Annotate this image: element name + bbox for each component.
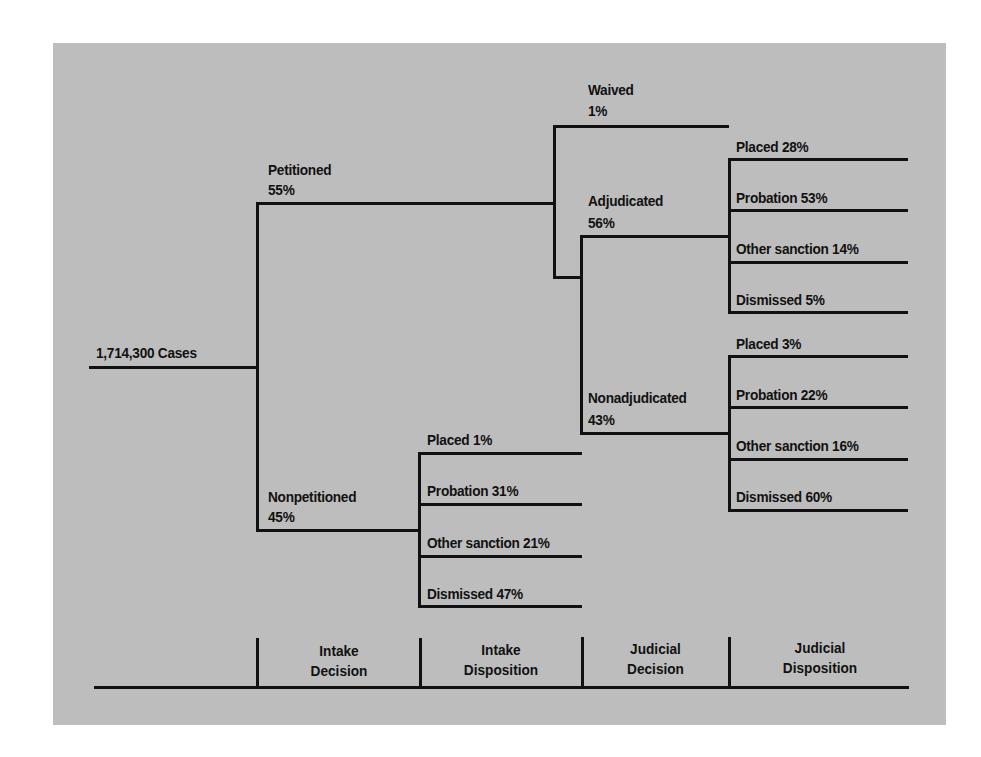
root-line [89, 366, 259, 369]
petitioned-line [256, 202, 555, 205]
nonadj-disp-probation: Probation 22% [736, 385, 827, 404]
petitioned-pct: 55% [268, 180, 295, 199]
petitioned-label: Petitioned [268, 160, 331, 179]
judicial-decision-connector [553, 125, 556, 278]
adj-disp-dismissed: Dismissed 5% [736, 290, 825, 309]
stage-line1: Intake [431, 640, 572, 660]
stage-axis-line [94, 686, 909, 689]
nonadjudicated-label: Nonadjudicated [588, 388, 687, 407]
stage-intake-disposition: Intake Disposition [431, 640, 572, 680]
np-disp-line [418, 452, 582, 455]
nonpetitioned-label: Nonpetitioned [268, 487, 356, 506]
stage-divider [728, 637, 731, 687]
adj-disp-line [728, 158, 908, 161]
stage-intake-decision: Intake Decision [269, 641, 410, 681]
stage-line1: Judicial [592, 639, 720, 659]
np-disp-dismissed: Dismissed 47% [427, 584, 523, 603]
adj-disp-line [728, 209, 908, 212]
stage-line1: Judicial [741, 638, 899, 658]
nonadj-disp-line [728, 406, 908, 409]
nonadj-disp-line [728, 355, 908, 358]
np-disp-line [418, 555, 582, 558]
nonpetitioned-pct: 45% [268, 507, 295, 526]
nonadjudicated-line [580, 432, 730, 435]
stage-divider [419, 638, 422, 688]
stage-divider [581, 637, 584, 687]
stage-line1: Intake [269, 641, 410, 661]
stage-divider [256, 638, 259, 688]
adjudicated-pct: 56% [588, 213, 615, 232]
stage-line2: Decision [592, 659, 720, 679]
adj-stub-line [553, 276, 583, 279]
stage-line2: Disposition [741, 658, 899, 678]
intake-decision-connector [256, 202, 259, 532]
nonadj-disp-connector [728, 355, 731, 510]
adj-disp-other: Other sanction 14% [736, 239, 859, 258]
root-cases-label: 1,714,300 Cases [96, 343, 197, 362]
adj-disp-line [728, 261, 908, 264]
waived-pct: 1% [588, 101, 607, 120]
nonpetitioned-disp-connector [418, 452, 421, 607]
adj-disp-line [728, 311, 908, 314]
np-disp-line [418, 503, 582, 506]
waived-label: Waived [588, 80, 634, 99]
np-disp-placed: Placed 1% [427, 430, 492, 449]
adjudicated-line [580, 235, 730, 238]
np-disp-other: Other sanction 21% [427, 533, 550, 552]
diagram-panel [53, 43, 946, 725]
stage-judicial-disposition: Judicial Disposition [741, 638, 899, 678]
adjudicated-label: Adjudicated [588, 191, 663, 210]
nonadjudicated-pct: 43% [588, 410, 615, 429]
nonpetitioned-line [256, 529, 421, 532]
stage-judicial-decision: Judicial Decision [592, 639, 720, 679]
np-disp-line [418, 605, 582, 608]
adj-disp-connector [728, 158, 731, 313]
np-disp-probation: Probation 31% [427, 481, 518, 500]
nonadj-disp-line [728, 458, 908, 461]
waived-line [553, 125, 729, 128]
stage-line2: Decision [269, 661, 410, 681]
nonadj-disp-other: Other sanction 16% [736, 436, 859, 455]
adj-disp-probation: Probation 53% [736, 188, 827, 207]
nonadj-disp-dismissed: Dismissed 60% [736, 487, 832, 506]
adjudication-connector [580, 235, 583, 435]
stage-line2: Disposition [431, 660, 572, 680]
nonadj-disp-line [728, 509, 908, 512]
adj-disp-placed: Placed 28% [736, 137, 808, 156]
nonadj-disp-placed: Placed 3% [736, 334, 801, 353]
